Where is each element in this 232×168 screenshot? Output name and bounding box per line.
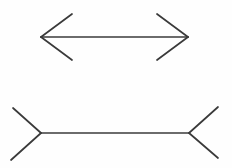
illusion-canvas bbox=[0, 0, 232, 168]
muller-lyer-figure-svg bbox=[0, 0, 232, 168]
canvas-background bbox=[0, 0, 232, 168]
